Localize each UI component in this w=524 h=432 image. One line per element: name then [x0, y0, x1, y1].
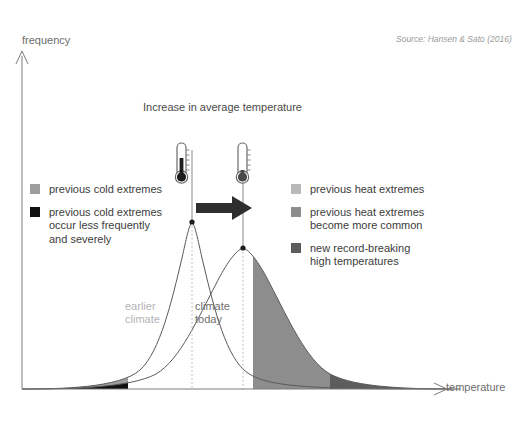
legend-cold-extremes: previous cold extremes previous cold ext… [30, 183, 162, 255]
legend-item: previous heat extremes become more commo… [291, 206, 424, 233]
arrow-right-icon [196, 196, 252, 220]
legend-swatch [30, 184, 40, 194]
curve-label-earlier-climate: earlier climate [125, 300, 160, 326]
legend-swatch [291, 207, 301, 217]
y-axis-label: frequency [22, 34, 70, 47]
legend-item: new record-breaking high temperatures [291, 242, 424, 269]
thermometer-icon-warm [175, 143, 189, 183]
source-attribution: Source: Hansen & Sato (2016) [396, 33, 512, 46]
legend-label: previous heat extremes become more commo… [310, 206, 424, 233]
legend-label: previous cold extremes occur less freque… [49, 206, 162, 247]
legend-swatch [291, 243, 301, 253]
chart-title: Increase in average temperature [143, 101, 302, 114]
legend-item: previous cold extremes [30, 183, 162, 197]
legend-label: previous cold extremes [49, 183, 162, 197]
thermometer-icon-cool [236, 143, 250, 183]
legend-heat-extremes: previous heat extremes previous heat ext… [291, 183, 424, 278]
legend-swatch [30, 207, 40, 217]
climate-distribution-figure: frequency temperature Source: Hansen & S… [0, 0, 524, 432]
legend-label: previous heat extremes [310, 183, 424, 197]
x-axis-label: temperature [446, 381, 505, 394]
legend-swatch [291, 184, 301, 194]
legend-item: previous heat extremes [291, 183, 424, 197]
curve-label-climate-today: climate today [195, 300, 230, 326]
marker-earlier-mean [189, 219, 194, 224]
marker-today-mean [240, 245, 245, 250]
legend-label: new record-breaking high temperatures [310, 242, 410, 269]
legend-item: previous cold extremes occur less freque… [30, 206, 162, 247]
